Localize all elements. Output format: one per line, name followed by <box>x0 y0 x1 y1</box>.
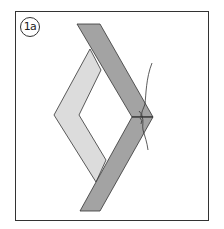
step-label: 1a <box>20 17 40 37</box>
light-strip <box>54 49 106 182</box>
